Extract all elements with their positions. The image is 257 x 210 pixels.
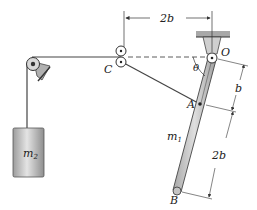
dim-label-b: b bbox=[235, 82, 242, 95]
label-b: B bbox=[169, 194, 178, 207]
dim-label-2b-rod: 2b bbox=[211, 149, 226, 162]
label-o: O bbox=[221, 46, 230, 59]
cable bbox=[27, 57, 200, 128]
point-a bbox=[198, 102, 202, 106]
rod-ob bbox=[173, 58, 216, 195]
mechanics-diagram: 2b C O θ A m1 B bbox=[0, 0, 257, 210]
left-pulley bbox=[27, 58, 51, 82]
pivot-o bbox=[207, 53, 217, 63]
label-a: A bbox=[186, 98, 195, 111]
label-c: C bbox=[104, 63, 113, 76]
label-m1: m1 bbox=[167, 130, 182, 144]
dim-label-2b-horizontal: 2b bbox=[159, 12, 174, 25]
label-theta: θ bbox=[193, 62, 199, 73]
